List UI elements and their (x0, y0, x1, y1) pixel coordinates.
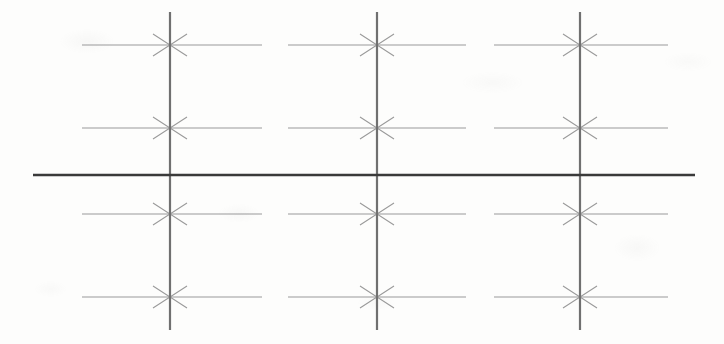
diagram-canvas (0, 0, 724, 344)
paper-background (0, 0, 724, 344)
line-drawing-svg (0, 0, 724, 344)
